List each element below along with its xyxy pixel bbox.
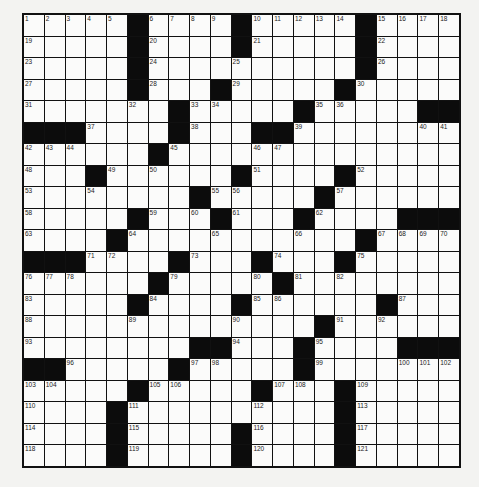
grid-cell[interactable]: 13 xyxy=(315,15,335,36)
grid-cell[interactable]: 118 xyxy=(24,445,44,466)
grid-cell[interactable] xyxy=(149,252,169,273)
grid-cell[interactable] xyxy=(418,316,438,337)
grid-cell[interactable]: 116 xyxy=(252,424,272,445)
grid-cell[interactable] xyxy=(273,166,293,187)
grid-cell[interactable]: 84 xyxy=(149,295,169,316)
grid-cell[interactable] xyxy=(439,424,459,445)
grid-cell[interactable]: 5 xyxy=(107,15,127,36)
grid-cell[interactable]: 57 xyxy=(335,187,355,208)
grid-cell[interactable]: 59 xyxy=(149,209,169,230)
grid-cell[interactable] xyxy=(418,187,438,208)
grid-cell[interactable] xyxy=(45,316,65,337)
grid-cell[interactable]: 21 xyxy=(252,37,272,58)
grid-cell[interactable]: 58 xyxy=(24,209,44,230)
grid-cell[interactable] xyxy=(315,424,335,445)
grid-cell[interactable]: 120 xyxy=(252,445,272,466)
grid-cell[interactable] xyxy=(66,381,86,402)
grid-cell[interactable] xyxy=(377,359,397,380)
grid-cell[interactable]: 73 xyxy=(190,252,210,273)
grid-cell[interactable] xyxy=(66,445,86,466)
grid-cell[interactable] xyxy=(315,295,335,316)
grid-cell[interactable]: 117 xyxy=(356,424,376,445)
grid-cell[interactable]: 50 xyxy=(149,166,169,187)
grid-cell[interactable] xyxy=(398,187,418,208)
grid-cell[interactable] xyxy=(273,80,293,101)
grid-cell[interactable]: 17 xyxy=(418,15,438,36)
grid-cell[interactable] xyxy=(315,252,335,273)
grid-cell[interactable] xyxy=(128,359,148,380)
grid-cell[interactable] xyxy=(377,338,397,359)
grid-cell[interactable]: 38 xyxy=(190,123,210,144)
grid-cell[interactable] xyxy=(335,144,355,165)
grid-cell[interactable] xyxy=(294,424,314,445)
grid-cell[interactable] xyxy=(149,424,169,445)
grid-cell[interactable] xyxy=(45,37,65,58)
grid-cell[interactable] xyxy=(169,209,189,230)
grid-cell[interactable] xyxy=(86,359,106,380)
grid-cell[interactable] xyxy=(315,445,335,466)
grid-cell[interactable] xyxy=(86,424,106,445)
grid-cell[interactable] xyxy=(398,80,418,101)
grid-cell[interactable] xyxy=(211,252,231,273)
grid-cell[interactable] xyxy=(211,273,231,294)
grid-cell[interactable] xyxy=(211,316,231,337)
grid-cell[interactable] xyxy=(149,101,169,122)
grid-cell[interactable]: 33 xyxy=(190,101,210,122)
grid-cell[interactable] xyxy=(377,144,397,165)
grid-cell[interactable] xyxy=(169,37,189,58)
grid-cell[interactable] xyxy=(294,402,314,423)
grid-cell[interactable] xyxy=(107,316,127,337)
grid-cell[interactable]: 88 xyxy=(24,316,44,337)
grid-cell[interactable]: 36 xyxy=(335,101,355,122)
grid-cell[interactable] xyxy=(356,187,376,208)
grid-cell[interactable] xyxy=(439,37,459,58)
grid-cell[interactable] xyxy=(190,402,210,423)
grid-cell[interactable]: 44 xyxy=(66,144,86,165)
grid-cell[interactable] xyxy=(190,424,210,445)
grid-cell[interactable] xyxy=(418,80,438,101)
grid-cell[interactable] xyxy=(398,144,418,165)
grid-cell[interactable]: 91 xyxy=(335,316,355,337)
grid-cell[interactable] xyxy=(273,316,293,337)
grid-cell[interactable] xyxy=(377,402,397,423)
grid-cell[interactable]: 3 xyxy=(66,15,86,36)
grid-cell[interactable] xyxy=(398,402,418,423)
grid-cell[interactable] xyxy=(128,166,148,187)
grid-cell[interactable]: 69 xyxy=(418,230,438,251)
grid-cell[interactable] xyxy=(335,58,355,79)
grid-cell[interactable]: 115 xyxy=(128,424,148,445)
grid-cell[interactable] xyxy=(66,187,86,208)
grid-cell[interactable] xyxy=(128,338,148,359)
grid-cell[interactable] xyxy=(190,445,210,466)
grid-cell[interactable] xyxy=(377,80,397,101)
grid-cell[interactable] xyxy=(149,316,169,337)
grid-cell[interactable] xyxy=(294,316,314,337)
grid-cell[interactable] xyxy=(315,37,335,58)
grid-cell[interactable] xyxy=(128,252,148,273)
grid-cell[interactable] xyxy=(128,144,148,165)
grid-cell[interactable]: 74 xyxy=(273,252,293,273)
grid-cell[interactable] xyxy=(439,187,459,208)
grid-cell[interactable] xyxy=(418,402,438,423)
grid-cell[interactable] xyxy=(107,338,127,359)
grid-cell[interactable] xyxy=(377,273,397,294)
grid-cell[interactable]: 108 xyxy=(294,381,314,402)
grid-cell[interactable]: 47 xyxy=(273,144,293,165)
grid-cell[interactable] xyxy=(211,445,231,466)
grid-cell[interactable]: 99 xyxy=(315,359,335,380)
grid-cell[interactable] xyxy=(169,80,189,101)
grid-cell[interactable]: 81 xyxy=(294,273,314,294)
grid-cell[interactable] xyxy=(169,402,189,423)
grid-cell[interactable] xyxy=(190,295,210,316)
grid-cell[interactable] xyxy=(377,209,397,230)
grid-cell[interactable]: 114 xyxy=(24,424,44,445)
grid-cell[interactable] xyxy=(107,381,127,402)
grid-cell[interactable]: 85 xyxy=(252,295,272,316)
grid-cell[interactable] xyxy=(66,316,86,337)
grid-cell[interactable] xyxy=(335,123,355,144)
grid-cell[interactable] xyxy=(190,230,210,251)
grid-cell[interactable] xyxy=(273,338,293,359)
grid-cell[interactable] xyxy=(294,80,314,101)
grid-cell[interactable] xyxy=(66,166,86,187)
grid-cell[interactable] xyxy=(66,295,86,316)
